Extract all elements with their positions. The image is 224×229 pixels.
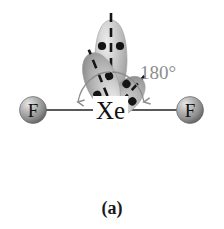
electron-dot xyxy=(98,42,106,50)
atom-xenon-center: Xe xyxy=(93,96,128,124)
figure-caption: (a) xyxy=(102,198,123,219)
fluorine-right-label: F xyxy=(185,100,196,121)
diagram-canvas: F F Xe 180° (a) xyxy=(0,0,224,229)
bond-angle-label: 180° xyxy=(140,62,176,83)
fluorine-left-label: F xyxy=(28,100,39,121)
molecular-geometry-figure: F F Xe 180° (a) xyxy=(0,0,224,229)
atom-fluorine-right: F xyxy=(177,97,204,124)
atom-fluorine-left: F xyxy=(20,97,47,124)
electron-dot xyxy=(116,42,124,50)
xenon-label: Xe xyxy=(96,97,125,124)
